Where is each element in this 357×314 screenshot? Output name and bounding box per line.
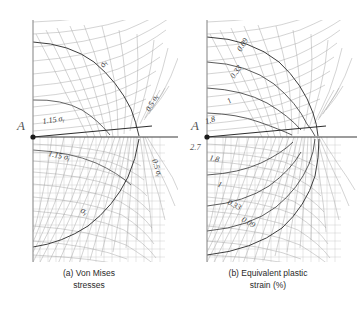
label-115-upper: 1.15 σᵧ [42, 114, 65, 126]
caption-panel-a: (a) Von Mises stresses [0, 268, 178, 291]
contour-1-upper [207, 88, 301, 130]
contour-lines [33, 42, 139, 247]
caption-b-line1: (b) Equivalent plastic [229, 268, 308, 278]
contour-18-upper [207, 113, 292, 135]
caption-a-line2: stresses [0, 280, 178, 292]
figure-container: A σᵧ 1.15 σᵧ 0.5 σᵧ 1.15 σᵧ 0.5 σᵧ σᵧ (a… [0, 0, 357, 314]
contour-18-lower [207, 142, 293, 175]
label-115-lower: 1.15 σᵧ [48, 149, 71, 162]
deformed-crack-face [33, 126, 152, 137]
label-1-lower: 1 [216, 180, 223, 190]
crack-tip-marker-A [204, 134, 209, 139]
label-1-upper: 1 [225, 96, 233, 106]
panel-plastic-strain: A 2.7 0.09 0.33 1 1.8 1.8 1 0.33 0.09 (b… [179, 0, 357, 314]
label-009-upper: 0.09 [235, 36, 250, 53]
deformed-crack-face [207, 126, 326, 137]
label-033-upper: 0.33 [228, 64, 243, 81]
caption-panel-b: (b) Equivalent plastic strain (%) [179, 268, 357, 291]
crack-tip-value-label: 2.7 [190, 142, 201, 152]
crack-tip-marker-A [30, 134, 35, 139]
label-18-upper: 1.8 [204, 115, 216, 126]
point-a-label: A [16, 118, 25, 133]
caption-b-line2: strain (%) [179, 280, 357, 292]
caption-a-line1: (a) Von Mises [63, 268, 115, 278]
panel-von-mises: A σᵧ 1.15 σᵧ 0.5 σᵧ 1.15 σᵧ 0.5 σᵧ σᵧ (a… [0, 0, 178, 314]
plot-plastic-strain: A 2.7 0.09 0.33 1 1.8 1.8 1 0.33 0.09 [179, 0, 357, 266]
label-18-lower: 1.8 [209, 153, 221, 164]
crack-and-axes [204, 20, 357, 262]
point-a-label: A [190, 118, 199, 133]
plot-von-mises: A σᵧ 1.15 σᵧ 0.5 σᵧ 1.15 σᵧ 0.5 σᵧ σᵧ [0, 0, 178, 266]
